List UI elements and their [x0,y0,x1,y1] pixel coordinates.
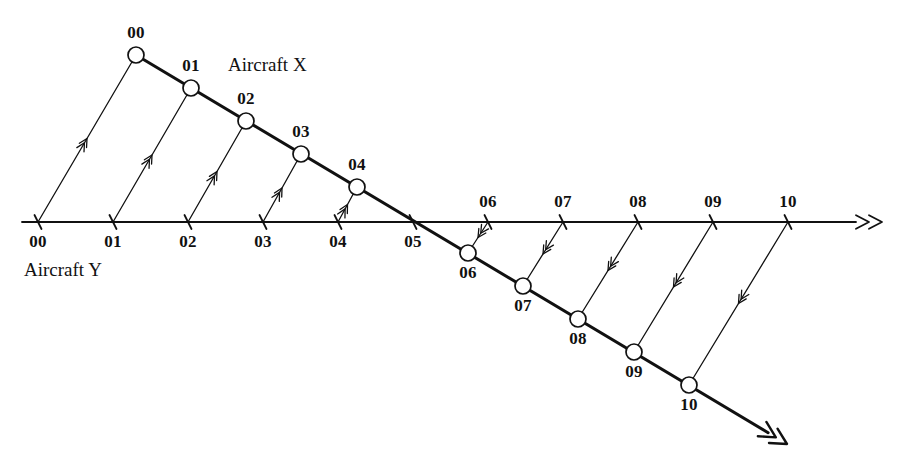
sight-line-barb-08 [611,257,619,266]
aircraft-x-node-00 [128,47,144,63]
aircraft-x-node-04 [349,179,365,195]
sight-line-barb-07 [546,241,554,250]
aircraft-x-node-label-09: 09 [625,362,642,382]
aircraft-y-track-label: Aircraft Y [24,259,102,281]
figure-canvas [0,0,898,469]
aircraft-x-node-label-04: 04 [348,155,365,175]
aircraft-x-track-label: Aircraft X [228,54,307,76]
aircraft-x-track-line [136,55,768,433]
axis-tick-label-02: 02 [179,232,196,252]
aircraft-y-axis-group [22,215,882,229]
axis-tick-label-03: 03 [254,232,271,252]
aircraft-x-node-06 [460,245,476,261]
axis-tick-label-01: 01 [104,232,121,252]
aircraft-x-node-02 [238,113,254,129]
axis-tick-label-09: 09 [704,192,721,212]
aircraft-x-node-label-02: 02 [237,89,254,109]
axis-tick-label-06: 06 [479,192,496,212]
aircraft-x-node-09 [626,344,642,360]
axis-tick-label-10: 10 [779,192,796,212]
aircraft-x-node-08 [570,311,586,327]
axis-tick-label-04: 04 [329,232,346,252]
aircraft-x-node-01 [183,80,199,96]
aircraft-x-node-label-08: 08 [569,329,586,349]
sight-line-barb-10 [741,290,749,299]
sight-line-barb-09 [676,274,684,283]
axis-tick-label-07: 07 [554,192,571,212]
aircraft-x-node-03 [293,146,309,162]
aircraft-x-node-label-01: 01 [182,56,199,76]
aircraft-relative-motion-figure: Aircraft X Aircraft Y 000102030405060708… [0,0,898,469]
aircraft-x-node-label-10: 10 [680,395,697,415]
axis-arrowhead-icon [856,215,869,229]
axis-tick-label-00: 00 [29,232,46,252]
axis-tick-label-05: 05 [404,232,421,252]
sight-line-barb-06 [481,224,489,233]
axis-arrowhead-icon [869,215,882,229]
aircraft-x-node-07 [515,278,531,294]
aircraft-x-node-label-06: 06 [459,263,476,283]
aircraft-x-node-label-07: 07 [514,296,531,316]
aircraft-x-node-label-00: 00 [127,23,144,43]
aircraft-x-node-label-03: 03 [292,122,309,142]
axis-tick-label-08: 08 [629,192,646,212]
aircraft-x-node-10 [681,377,697,393]
